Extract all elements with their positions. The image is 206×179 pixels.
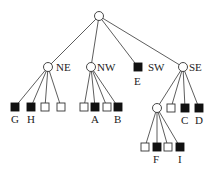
label-i: I: [178, 153, 182, 165]
se-edges: [157, 67, 199, 108]
se-sub-edges: [145, 108, 180, 147]
ne-edges: [15, 67, 61, 107]
sw-leaf-black: [134, 63, 142, 71]
leaf-white: [57, 103, 65, 111]
root-edges: [48, 16, 183, 67]
label-nw: NW: [97, 61, 116, 73]
label-h: H: [27, 113, 35, 125]
leaf-f: [153, 143, 161, 151]
root-node: [95, 12, 104, 21]
label-sw: SW: [148, 61, 165, 73]
leaf-g: [11, 103, 19, 111]
label-se: SE: [189, 61, 202, 73]
leaf-white: [141, 143, 149, 151]
quadtree-diagram: NE NW SW SE E G H A B C D F I: [0, 0, 206, 179]
leaf-white: [164, 143, 172, 151]
ne-node: [44, 63, 53, 72]
leaf-white: [41, 103, 49, 111]
nw-edges: [84, 67, 118, 107]
quadtree-svg: NE NW SW SE E G H A B C D F I: [0, 0, 206, 179]
leaf-h: [27, 103, 35, 111]
label-a: A: [91, 113, 99, 125]
leaf-i: [176, 143, 184, 151]
leaf-b: [114, 103, 122, 111]
label-b: B: [114, 113, 121, 125]
label-g: G: [11, 113, 19, 125]
leaf-d: [195, 104, 203, 112]
leaf-a: [91, 103, 99, 111]
label-c: C: [181, 114, 188, 126]
se-node: [179, 63, 188, 72]
label-ne: NE: [56, 61, 71, 73]
leaf-white: [167, 104, 175, 112]
leaf-c: [181, 104, 189, 112]
label-d: D: [195, 114, 203, 126]
se-sub-node: [153, 104, 162, 113]
label-e: E: [134, 75, 141, 87]
leaf-white: [80, 103, 88, 111]
leaf-white: [103, 103, 111, 111]
label-f: F: [153, 153, 159, 165]
nw-node: [87, 63, 96, 72]
